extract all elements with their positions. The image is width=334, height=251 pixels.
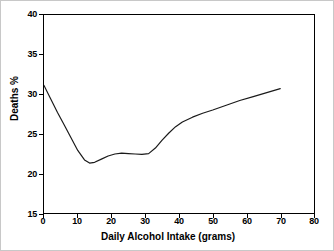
y-tick-label-35: 35: [11, 50, 37, 59]
x-tick-label-0: 0: [31, 217, 55, 226]
x-tick-label-70: 70: [269, 217, 293, 226]
plot-area: [43, 14, 315, 214]
y-tick-label-40: 40: [11, 10, 37, 19]
x-tick-label-40: 40: [167, 217, 191, 226]
x-axis-label: Daily Alcohol Intake (grams): [1, 231, 334, 242]
y-tick-label-20: 20: [11, 170, 37, 179]
x-tick-label-30: 30: [133, 217, 157, 226]
y-tick-mark-35: [39, 54, 43, 55]
x-tick-label-80: 80: [302, 217, 326, 226]
y-tick-mark-25: [39, 134, 43, 135]
y-axis-label: Deaths %: [9, 64, 20, 134]
x-tick-label-10: 10: [65, 217, 89, 226]
y-tick-mark-40: [39, 14, 43, 15]
x-tick-label-50: 50: [201, 217, 225, 226]
y-tick-mark-30: [39, 94, 43, 95]
x-tick-label-20: 20: [99, 217, 123, 226]
data-line: [44, 85, 280, 163]
chart-figure: 40 35 30 25 20 15 0 10 20 30 40 50 60 70…: [0, 0, 334, 251]
line-series-svg: [44, 15, 314, 213]
x-tick-label-60: 60: [235, 217, 259, 226]
y-tick-mark-20: [39, 174, 43, 175]
